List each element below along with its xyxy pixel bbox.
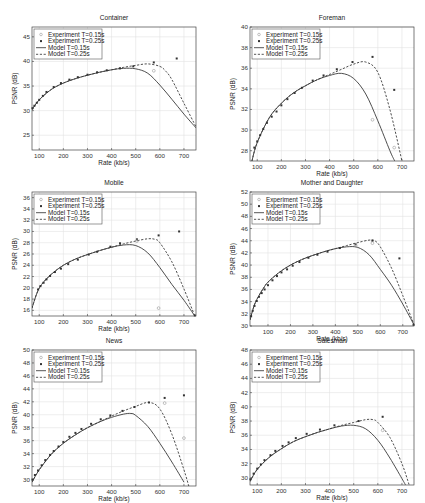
y-tick-label: 44 xyxy=(23,385,30,392)
experiment-point-t025 xyxy=(358,420,360,422)
x-tick-label: 600 xyxy=(155,152,166,159)
y-tick-label: 34 xyxy=(23,450,30,457)
experiment-point-t025 xyxy=(45,91,47,93)
y-tick-label: 18 xyxy=(23,295,30,302)
experiment-point-t025 xyxy=(74,432,76,434)
experiment-point-t025 xyxy=(53,450,55,452)
experiment-point-t025 xyxy=(44,459,46,461)
x-tick-label: 700 xyxy=(397,163,408,170)
experiment-point-t025 xyxy=(413,324,415,326)
experiment-point-t025 xyxy=(53,86,55,88)
experiment-point-t025 xyxy=(316,254,318,256)
y-tick-label: 30 xyxy=(241,126,248,133)
experiment-point-t025 xyxy=(178,230,180,232)
y-tick-label: 34 xyxy=(241,445,248,452)
experiment-point-t025 xyxy=(280,104,282,106)
x-tick-label: 300 xyxy=(308,328,319,335)
y-tick-label: 32 xyxy=(23,216,30,223)
experiment-point-t025 xyxy=(263,459,265,461)
x-tick-label: 200 xyxy=(58,152,69,159)
x-tick-label: 200 xyxy=(58,318,69,325)
x-tick-label: 200 xyxy=(285,328,296,335)
x-tick-label: 300 xyxy=(82,318,93,325)
legend-marker-filled-dot-icon xyxy=(40,205,42,207)
experiment-point-t025 xyxy=(39,285,41,287)
experiment-point-t025 xyxy=(323,74,325,76)
experiment-point-t025 xyxy=(288,441,290,443)
y-tick-label: 26 xyxy=(23,250,30,257)
legend: Experiment T=0.15sExperiment T=0.25sMode… xyxy=(34,29,104,59)
chart-title: Foreman xyxy=(319,14,346,21)
x-axis-label: Rate (kb/s) xyxy=(98,159,129,167)
experiment-point-t025 xyxy=(393,89,395,91)
figure-canvas: 1002003004005006007002530354045Container… xyxy=(0,0,425,503)
chart-panel-news: 1002003004005006007003032343638404244464… xyxy=(11,337,196,503)
x-tick-label: 400 xyxy=(324,487,335,494)
experiment-point-t025 xyxy=(62,441,64,443)
experiment-point-t025 xyxy=(256,300,258,302)
x-tick-label: 100 xyxy=(252,487,263,494)
y-tick-label: 36 xyxy=(23,437,30,444)
y-tick-label: 20 xyxy=(23,284,30,291)
experiment-point-t025 xyxy=(148,401,150,403)
experiment-point-t025 xyxy=(327,251,329,253)
x-tick-label: 500 xyxy=(131,488,142,495)
experiment-point-t025 xyxy=(96,251,98,253)
x-tick-label: 700 xyxy=(179,488,190,495)
chart-panel-container: 1002003004005006007002530354045Container… xyxy=(11,14,196,167)
experiment-point-t025 xyxy=(119,242,121,244)
y-tick-label: 48 xyxy=(23,359,30,366)
y-axis-label: PSNR (dB) xyxy=(229,78,237,110)
y-tick-label: 38 xyxy=(23,424,30,431)
experiment-point-t025 xyxy=(294,92,296,94)
experiment-point-t025 xyxy=(286,98,288,100)
experiment-point-t025 xyxy=(298,261,300,263)
y-tick-label: 16 xyxy=(23,306,30,313)
experiment-point-t025 xyxy=(249,478,251,480)
experiment-point-t025 xyxy=(307,257,309,259)
experiment-point-t025 xyxy=(49,454,51,456)
y-tick-label: 42 xyxy=(241,389,248,396)
experiment-point-t025 xyxy=(194,314,196,316)
y-tick-label: 32 xyxy=(241,105,248,112)
experiment-point-t025 xyxy=(42,95,44,97)
experiment-point-t025 xyxy=(339,247,341,249)
x-tick-label: 100 xyxy=(263,328,274,335)
experiment-point-t025 xyxy=(262,128,264,130)
experiment-point-t025 xyxy=(86,74,88,76)
experiment-point-t025 xyxy=(292,265,294,267)
experiment-point-t025 xyxy=(271,279,273,281)
y-axis-label: PSNR (dB) xyxy=(11,238,19,270)
experiment-point-t025 xyxy=(276,275,278,277)
y-tick-label: 45 xyxy=(23,33,30,40)
x-tick-label: 300 xyxy=(82,488,93,495)
y-tick-label: 52 xyxy=(241,188,248,195)
experiment-point-t025 xyxy=(109,246,111,248)
y-tick-label: 40 xyxy=(241,403,248,410)
y-tick-label: 28 xyxy=(23,239,30,246)
y-tick-label: 38 xyxy=(241,417,248,424)
x-tick-label: 200 xyxy=(276,487,287,494)
y-tick-label: 32 xyxy=(241,460,248,467)
x-axis-label: Rate (kb/s) xyxy=(98,495,129,503)
legend-label: Model T=0.25s xyxy=(48,215,90,222)
experiment-point-t025 xyxy=(260,463,262,465)
experiment-point-t025 xyxy=(352,61,354,63)
y-tick-label: 40 xyxy=(241,23,248,30)
y-tick-label: 35 xyxy=(23,82,30,89)
x-tick-label: 700 xyxy=(179,318,190,325)
y-tick-label: 46 xyxy=(241,225,248,232)
y-tick-label: 44 xyxy=(241,237,248,244)
experiment-point-t025 xyxy=(80,428,82,430)
experiment-point-t025 xyxy=(371,240,373,242)
experiment-point-t025 xyxy=(132,65,134,67)
chart-panel-salesman: 1002003004005006007003032343638404244464… xyxy=(229,337,414,502)
y-tick-label: 44 xyxy=(241,374,248,381)
x-tick-label: 100 xyxy=(34,152,45,159)
chart-title: Mobile xyxy=(104,179,124,186)
x-tick-label: 700 xyxy=(179,152,190,159)
experiment-point-t025 xyxy=(256,140,258,142)
experiment-point-t025 xyxy=(276,111,278,113)
x-tick-label: 400 xyxy=(330,328,341,335)
experiment-point-t025 xyxy=(106,69,108,71)
